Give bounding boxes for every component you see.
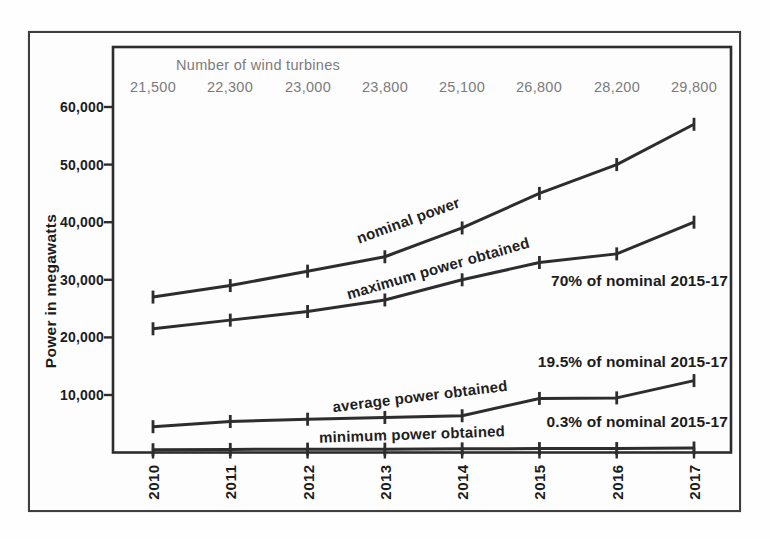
x-tick-2010: 2010: [145, 464, 162, 499]
top-axis-title: Number of wind turbines: [176, 57, 340, 73]
turbine-count-2016: 28,200: [577, 79, 657, 95]
annotation-19-5-percent: 19.5% of nominal 2015-17: [488, 353, 728, 371]
y-tick-40000: 40,000: [34, 214, 104, 230]
turbine-count-2012: 23,000: [268, 79, 348, 95]
y-tick-50000: 50,000: [34, 157, 104, 173]
turbine-count-2013: 23,800: [345, 79, 425, 95]
turbine-count-2017: 29,800: [654, 79, 734, 95]
annotation-70-percent: 70% of nominal 2015-17: [488, 272, 728, 290]
y-tick-10000: 10,000: [34, 387, 104, 403]
y-tick-30000: 30,000: [34, 272, 104, 288]
y-tick-20000: 20,000: [34, 329, 104, 345]
x-tick-2012: 2012: [300, 464, 317, 499]
scanned-figure-page: Power in megawatts 60,000 50,000 40,000 …: [0, 0, 770, 539]
annotation-0-3-percent: 0.3% of nominal 2015-17: [488, 413, 728, 431]
y-axis-title: Power in megawatts: [42, 214, 60, 368]
turbine-count-2010: 21,500: [113, 79, 193, 95]
x-tick-2016: 2016: [609, 464, 626, 499]
x-tick-2014: 2014: [454, 464, 471, 499]
x-tick-2017: 2017: [686, 464, 703, 499]
turbine-count-2011: 22,300: [190, 79, 270, 95]
x-tick-2013: 2013: [377, 464, 394, 499]
y-tick-60000: 60,000: [34, 99, 104, 115]
turbine-count-2014: 25,100: [422, 79, 502, 95]
x-tick-2011: 2011: [222, 465, 239, 500]
turbine-count-2015: 26,800: [499, 79, 579, 95]
x-tick-2015: 2015: [531, 464, 548, 499]
